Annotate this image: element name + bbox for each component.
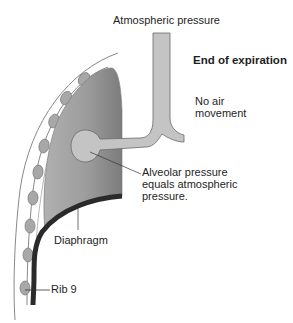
end-of-expiration-label: End of expiration bbox=[193, 54, 287, 67]
lung-pressure-diagram bbox=[0, 0, 293, 323]
atmospheric-pressure-label: Atmospheric pressure bbox=[113, 14, 220, 27]
rib-icon bbox=[23, 248, 33, 262]
movement-label: movement bbox=[195, 107, 246, 120]
diaphragm-label: Diaphragm bbox=[54, 234, 108, 247]
rib-icon bbox=[25, 219, 35, 233]
rib-icon bbox=[28, 191, 39, 206]
rib-icon bbox=[32, 164, 44, 179]
rib-9-icon bbox=[20, 281, 30, 295]
pressure-period-label: pressure. bbox=[142, 190, 188, 203]
rib-9-label: Rib 9 bbox=[51, 283, 77, 296]
